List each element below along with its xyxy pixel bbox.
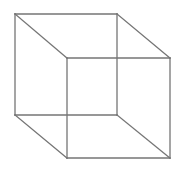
necker-cube-figure [0,0,183,173]
connector-bottom-right [117,115,170,158]
necker-cube-drawing [0,0,183,173]
connector-bottom-left [15,115,67,158]
connector-top-right [117,14,170,58]
connector-top-left [15,14,67,58]
cube-edge-group [15,14,170,158]
